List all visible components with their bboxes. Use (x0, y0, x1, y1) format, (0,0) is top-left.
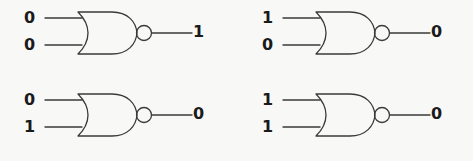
input-label-a: 1 (262, 92, 273, 108)
output-label: 1 (193, 24, 204, 40)
nor-gate-body (78, 12, 137, 54)
nor-gate-bottom-right: 1 1 0 (238, 82, 473, 161)
nor-gate-body (78, 94, 137, 136)
inversion-bubble (375, 26, 390, 41)
nor-gate-body (316, 12, 375, 54)
output-label: 0 (431, 106, 442, 122)
input-label-a: 1 (262, 10, 273, 26)
inversion-bubble (137, 26, 152, 41)
nor-gate-bottom-left: 0 1 0 (0, 82, 237, 161)
input-label-b: 0 (24, 37, 35, 53)
input-label-b: 1 (262, 119, 273, 135)
output-label: 0 (193, 106, 204, 122)
diagram-canvas: 0 0 1 1 0 0 0 (0, 0, 473, 161)
inversion-bubble (137, 108, 152, 123)
input-label-a: 0 (24, 92, 35, 108)
input-label-a: 0 (24, 10, 35, 26)
output-label: 0 (431, 24, 442, 40)
input-label-b: 1 (24, 119, 35, 135)
inversion-bubble (375, 108, 390, 123)
nor-gate-body (316, 94, 375, 136)
nor-gate-top-left: 0 0 1 (0, 0, 237, 80)
nor-gate-top-right: 1 0 0 (238, 0, 473, 80)
input-label-b: 0 (262, 37, 273, 53)
